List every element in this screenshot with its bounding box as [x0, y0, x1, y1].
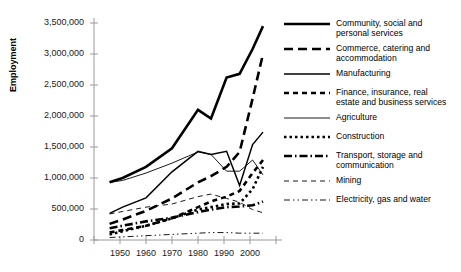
series-line [110, 233, 263, 238]
legend-label: Electricity, gas and water [330, 194, 431, 204]
y-tick-label: 2,500,000 [0, 79, 84, 89]
y-tick-label: 3,500,000 [0, 17, 84, 27]
legend-label: Mining [330, 175, 361, 185]
legend-label: Community, social and personal services [330, 18, 422, 38]
x-tick-label: 2000 [230, 248, 270, 258]
y-tick-label: 1,500,000 [0, 141, 84, 151]
y-tick-label: 2,000,000 [0, 110, 84, 120]
series-line [110, 54, 263, 224]
y-tick-label: 0 [0, 234, 84, 244]
legend-item[interactable]: Mining [284, 175, 460, 189]
legend-swatch [284, 131, 330, 145]
legend-swatch [284, 87, 330, 101]
y-tick-label: 1,000,000 [0, 172, 84, 182]
y-tick-label: 3,000,000 [0, 48, 84, 58]
legend-item[interactable]: Manufacturing [284, 68, 460, 82]
legend-item[interactable]: Agriculture [284, 112, 460, 126]
legend-label: Transport, storage and communication [330, 150, 423, 170]
legend-item[interactable]: Construction [284, 131, 460, 145]
series-line [110, 202, 263, 229]
legend-swatch [284, 18, 330, 32]
legend-swatch [284, 175, 330, 189]
chart-legend: Community, social and personal servicesC… [284, 18, 460, 213]
employment-line-chart: Employment 0500,0001,000,0001,500,0002,0… [0, 0, 461, 272]
legend-label: Finance, insurance, real estate and busi… [330, 87, 446, 107]
legend-item[interactable]: Transport, storage and communication [284, 150, 460, 170]
legend-swatch [284, 112, 330, 126]
legend-label: Commerce, catering and accommodation [330, 43, 430, 63]
series-line [110, 152, 263, 182]
legend-item[interactable]: Electricity, gas and water [284, 194, 460, 208]
legend-label: Manufacturing [330, 68, 390, 78]
legend-label: Construction [330, 131, 384, 141]
legend-item[interactable]: Commerce, catering and accommodation [284, 43, 460, 63]
legend-item[interactable]: Community, social and personal services [284, 18, 460, 38]
y-tick-label: 500,000 [0, 203, 84, 213]
legend-swatch [284, 194, 330, 208]
series-line [110, 26, 263, 182]
legend-item[interactable]: Finance, insurance, real estate and busi… [284, 87, 460, 107]
legend-swatch [284, 150, 330, 164]
legend-swatch [284, 68, 330, 82]
legend-swatch [284, 43, 330, 57]
legend-label: Agriculture [330, 112, 377, 122]
